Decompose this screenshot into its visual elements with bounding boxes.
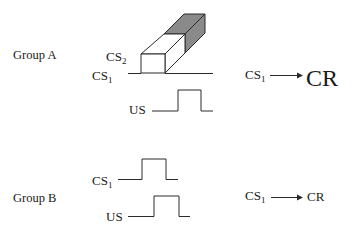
right-arrow-icon	[270, 73, 303, 79]
group-b: Group B CS1 US CS1 CR	[13, 159, 325, 224]
right-arrow-icon	[271, 195, 303, 201]
cs2-3d-block	[141, 14, 205, 73]
group-a-result-cs1: CS1	[245, 67, 265, 84]
group-b-result-cr: CR	[307, 189, 325, 204]
group-a-result-cr: CR	[306, 65, 338, 91]
group-b-cs1-label: CS1	[92, 173, 112, 190]
group-b-label: Group B	[13, 191, 56, 205]
group-a-cs1-label: CS1	[92, 68, 112, 85]
group-a-us-trace	[152, 90, 213, 111]
group-a-cs2-label: CS2	[106, 49, 126, 66]
group-a-us-label: US	[129, 102, 146, 117]
block-front-face	[141, 54, 165, 73]
group-b-us-label: US	[106, 209, 123, 224]
group-a-label: Group A	[13, 48, 56, 62]
group-b-cs1-trace	[118, 159, 178, 180]
group-b-result-cs1: CS1	[245, 188, 265, 205]
group-b-us-trace	[128, 196, 190, 217]
group-a: Group A CS2 CS1 US CS1 CR	[13, 14, 338, 117]
conditioning-diagram: Group A CS2 CS1 US CS1 CR	[0, 0, 359, 237]
